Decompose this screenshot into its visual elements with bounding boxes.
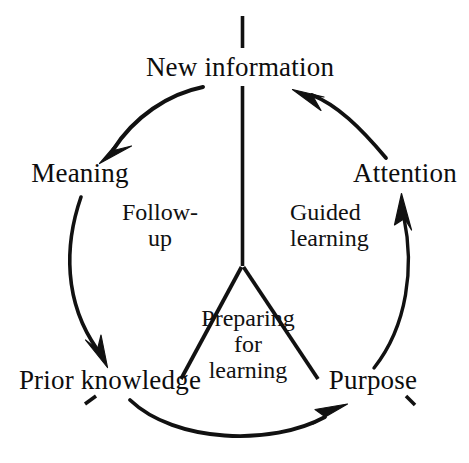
arrow-shaft bbox=[113, 87, 203, 150]
sector-label-guided-learning-line-1: Guided bbox=[290, 200, 386, 226]
arrow-meaning-to-prior-knowledge bbox=[70, 197, 108, 368]
sector-label-follow-up: Follow- up bbox=[118, 200, 202, 252]
node-label-meaning: Meaning bbox=[22, 160, 138, 187]
node-label-attention: Attention bbox=[344, 160, 466, 187]
arrow-new-information-to-meaning bbox=[100, 87, 204, 164]
arrow-attention-to-new-information bbox=[293, 90, 387, 159]
sector-label-preparing-for-learning-line-1: Preparing bbox=[196, 306, 300, 332]
sector-label-guided-learning: Guided learning bbox=[290, 200, 386, 252]
node-label-purpose: Purpose bbox=[320, 367, 426, 394]
sector-label-preparing-for-learning-line-3: learning bbox=[196, 358, 300, 384]
node-label-prior-knowledge: Prior knowledge bbox=[12, 367, 208, 394]
tick-prior-knowledge bbox=[85, 396, 96, 404]
arrow-shaft bbox=[130, 400, 325, 436]
arrow-shaft bbox=[312, 95, 386, 158]
arrow-shaft bbox=[70, 197, 97, 349]
arrow-prior-knowledge-to-purpose bbox=[130, 400, 348, 436]
node-label-new-information: New information bbox=[140, 54, 340, 81]
arrowhead bbox=[395, 194, 412, 231]
tick-purpose bbox=[406, 396, 415, 405]
sector-label-follow-up-line-2: up bbox=[118, 226, 202, 252]
sector-label-follow-up-line-1: Follow- bbox=[118, 200, 202, 226]
sector-label-preparing-for-learning: Preparing for learning bbox=[196, 306, 300, 384]
arrowhead bbox=[313, 404, 348, 424]
sector-label-preparing-for-learning-line-2: for bbox=[196, 332, 300, 358]
sector-label-guided-learning-line-2: learning bbox=[290, 226, 386, 252]
learning-cycle-diagram: New information Meaning Attention Prior … bbox=[0, 0, 469, 463]
arrowhead bbox=[86, 335, 108, 368]
